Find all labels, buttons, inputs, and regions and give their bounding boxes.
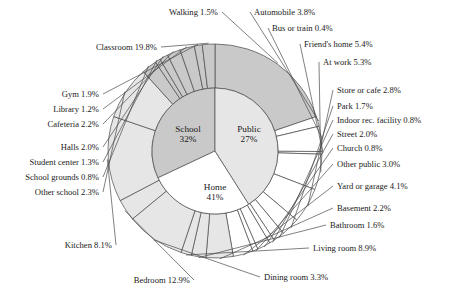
outer-segment-label: Kitchen 8.1% (65, 240, 112, 250)
outer-segment-label: Library 1.2% (53, 104, 99, 114)
outer-segment-label: Halls 2.0% (61, 142, 99, 152)
outer-segment-label: Cafeteria 2.2% (47, 119, 99, 129)
inner-segment-value: 32% (180, 134, 197, 144)
outer-segment-label: Park 1.7% (337, 101, 373, 111)
inner-segment-value: 27% (241, 134, 258, 144)
outer-segment-label: Store or cafe 2.8% (337, 85, 401, 95)
inner-segment-label: Home (204, 182, 226, 192)
outer-segment-label: Indoor rec. facility 0.8% (337, 115, 421, 125)
sunburst-chart: Walking 1.5%Automobile 3.8%Bus or train … (0, 0, 452, 295)
inner-segment-label: School (175, 124, 201, 134)
outer-segment-label: Automobile 3.8% (254, 7, 315, 17)
outer-segment-label: Basement 2.2% (337, 203, 391, 213)
outer-segment-label: Street 2.0% (337, 129, 377, 139)
outer-segment-label: Student center 1.3% (30, 157, 99, 167)
outer-segment-label: Other public 3.0% (337, 159, 400, 169)
outer-segment-label: Bathroom 1.6% (330, 220, 384, 230)
outer-segment-label: Yard or garage 4.1% (337, 181, 408, 191)
outer-segment-label: School grounds 0.8% (25, 172, 99, 182)
outer-segment-label: Gym 1.9% (62, 89, 99, 99)
outer-segment-label: Living room 8.9% (313, 243, 376, 253)
outer-segment-label: Classroom 19.8% (96, 42, 157, 52)
inner-segment-label: Public (237, 124, 260, 134)
outer-segment-label: Dining room 3.3% (264, 272, 328, 282)
outer-segment-label: Friend's home 5.4% (304, 39, 373, 49)
outer-segment-label: At work 5.3% (323, 57, 371, 67)
outer-segment-label: Walking 1.5% (169, 7, 218, 17)
chart-canvas: Walking 1.5%Automobile 3.8%Bus or train … (0, 0, 452, 295)
inner-segment-value: 41% (207, 192, 224, 202)
outer-segment-label: Bedroom 12.9% (134, 275, 190, 285)
outer-segment-label: Bus or train 0.4% (272, 23, 333, 33)
outer-segment-label: Church 0.8% (337, 143, 382, 153)
outer-segment-label: Other school 2.3% (35, 187, 99, 197)
